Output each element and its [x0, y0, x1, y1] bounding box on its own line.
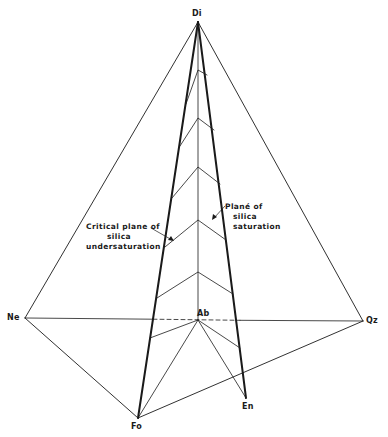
edge-ne-qz-left: [25, 318, 153, 319]
join-ab-en: [198, 320, 246, 398]
vertex-label-qz: Qz: [366, 317, 378, 325]
annotation-saturation-line-2: silica: [225, 212, 275, 222]
edge-di-qz: [198, 22, 363, 321]
annotation-critical-plane: Critical plane of silica undersaturation: [86, 222, 152, 252]
vertex-label-di: Di: [192, 10, 202, 18]
vertex-label-fo: Fo: [131, 423, 142, 431]
edge-ne-qz-right: [240, 320, 363, 321]
annotation-saturation-line-3: saturation: [225, 222, 275, 232]
annotation-critical-line-2: silica: [86, 232, 152, 242]
vertex-label-en: En: [242, 403, 254, 411]
tetrahedron-diagram: Di Ne Qz Ab Fo En Critical plane of sili…: [0, 0, 388, 437]
annotation-saturation-plane: Plané of silica saturation: [225, 202, 275, 232]
vertex-label-ab: Ab: [197, 310, 209, 318]
annotation-critical-line-3: undersaturation: [86, 242, 152, 252]
vertex-label-ne: Ne: [7, 314, 20, 322]
edge-ne-fo: [25, 318, 138, 418]
diagram-svg: [0, 0, 388, 437]
join-ab-fo: [138, 320, 198, 418]
arrowhead-saturation-plane: [212, 214, 217, 220]
annotation-saturation-line-1: Plané of: [225, 202, 275, 212]
annotation-critical-line-1: Critical plane of: [86, 222, 152, 232]
edge-di-fo: [138, 22, 198, 418]
edge-di-ne: [25, 22, 198, 318]
edge-ne-qz-hidden: [153, 319, 240, 320]
